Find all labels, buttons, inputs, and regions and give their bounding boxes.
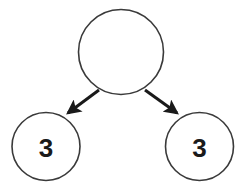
node-child-left-label: 3 (39, 133, 53, 163)
diagram-canvas: 3 3 (0, 0, 240, 191)
edge-root-to-right-child (145, 90, 177, 113)
node-child-right-label: 3 (192, 133, 206, 163)
tree-diagram: 3 3 (0, 0, 240, 191)
node-root-circle[interactable] (79, 10, 164, 95)
edge-root-to-left-child (68, 90, 99, 113)
